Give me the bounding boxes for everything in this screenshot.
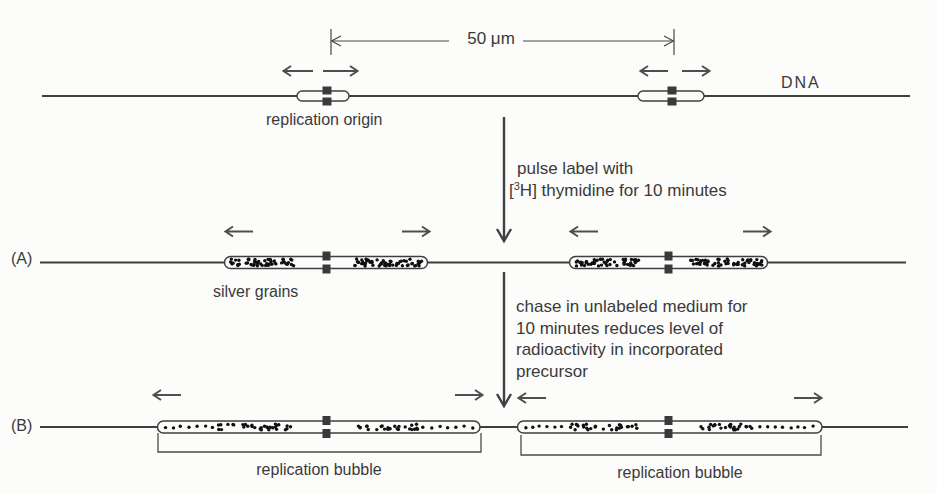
silver-grain-dot bbox=[803, 426, 806, 429]
origin-marker-icon bbox=[668, 87, 677, 95]
silver-grain-dot bbox=[587, 263, 590, 266]
silver-grain-dot bbox=[275, 428, 278, 431]
silver-grain-dot bbox=[811, 424, 814, 427]
silver-grain-dot bbox=[454, 426, 457, 429]
left-arrow-icon bbox=[284, 66, 314, 76]
silver-grain-dot bbox=[417, 260, 420, 263]
silver-grain-dot bbox=[615, 264, 618, 267]
origin-marker-icon bbox=[665, 252, 673, 261]
silver-grain-dot bbox=[724, 426, 727, 429]
silver-grain-dot bbox=[609, 258, 612, 261]
silver-grain-dot bbox=[553, 425, 556, 428]
silver-grain-dot bbox=[231, 261, 234, 264]
silver-grain-dot bbox=[408, 427, 411, 430]
silver-grain-dot bbox=[252, 264, 255, 267]
silver-grain-dot bbox=[367, 259, 370, 262]
silver-grain-dot bbox=[589, 427, 592, 430]
silver-grain-dot bbox=[471, 426, 474, 429]
silver-grain-dot bbox=[608, 424, 611, 427]
silver-grain-dot bbox=[360, 258, 363, 261]
silver-grain-dot bbox=[232, 423, 235, 426]
silver-grain-dot bbox=[634, 423, 637, 426]
silver-grain-dot bbox=[401, 264, 404, 267]
silver-grain-dot bbox=[737, 261, 740, 264]
silver-grain-dot bbox=[623, 262, 626, 265]
silver-grain-dot bbox=[187, 426, 190, 429]
left-arrow-icon bbox=[519, 393, 547, 403]
silver-grain-dot bbox=[537, 424, 540, 427]
silver-grain-dot bbox=[713, 262, 716, 265]
silver-grain-dot bbox=[531, 426, 534, 429]
origin-marker-icon bbox=[323, 252, 331, 261]
silver-grain-dot bbox=[716, 258, 719, 261]
bubble-bracket-left bbox=[158, 433, 481, 452]
silver-grain-dot bbox=[389, 260, 392, 263]
silver-grain-dot bbox=[367, 428, 370, 431]
silver-grain-dot bbox=[626, 263, 629, 266]
silver-grain-dot bbox=[724, 262, 727, 265]
silver-grain-dot bbox=[195, 425, 198, 428]
silver-grain-dot bbox=[462, 424, 465, 427]
silver-grain-dot bbox=[630, 425, 633, 428]
silver-grain-dot bbox=[755, 258, 758, 261]
silver-grain-dot bbox=[282, 258, 285, 261]
silver-grain-dot bbox=[247, 258, 250, 261]
silver-grain-dot bbox=[289, 425, 292, 428]
silver-grain-dot bbox=[600, 263, 603, 266]
silver-grain-dot bbox=[415, 423, 418, 426]
silver-grain-dot bbox=[736, 427, 739, 430]
silver-grain-dot bbox=[357, 260, 360, 263]
silver-grain-dot bbox=[220, 428, 223, 431]
silver-grains-label: silver grains bbox=[213, 283, 298, 301]
silver-grain-dot bbox=[630, 258, 633, 261]
silver-grain-dot bbox=[758, 425, 761, 428]
silver-grain-dot bbox=[632, 264, 635, 267]
silver-grain-dot bbox=[719, 426, 722, 429]
silver-grain-dot bbox=[383, 427, 386, 430]
silver-grain-dot bbox=[766, 425, 769, 428]
left-arrow-icon bbox=[571, 227, 599, 237]
silver-grain-dot bbox=[370, 261, 373, 264]
silver-grain-dot bbox=[268, 262, 271, 265]
silver-grain-dot bbox=[256, 261, 259, 264]
silver-grain-dot bbox=[237, 259, 240, 262]
silver-grain-dot bbox=[179, 425, 182, 428]
silver-grain-dot bbox=[703, 262, 706, 265]
silver-grain-dot bbox=[781, 426, 784, 429]
silver-grain-dot bbox=[545, 425, 548, 428]
silver-grain-dot bbox=[583, 264, 586, 267]
silver-grain-dot bbox=[560, 425, 563, 428]
silver-grain-dot bbox=[592, 262, 595, 265]
silver-grain-dot bbox=[694, 258, 697, 261]
silver-grain-dot bbox=[608, 263, 611, 266]
silver-grain-dot bbox=[603, 261, 606, 264]
silver-grain-dot bbox=[415, 427, 418, 430]
silver-grain-dot bbox=[570, 423, 573, 426]
silver-grain-dot bbox=[594, 425, 597, 428]
silver-grain-dot bbox=[446, 426, 449, 429]
top-fork-arrows bbox=[284, 66, 710, 76]
silver-grain-dot bbox=[575, 264, 578, 267]
pulse-step-line2-rest: H] thymidine for 10 minutes bbox=[520, 181, 727, 200]
silver-grain-dot bbox=[284, 262, 287, 265]
row-b-fork-arrows bbox=[154, 390, 822, 403]
silver-grain-dot bbox=[408, 258, 411, 261]
row-b-label: (B) bbox=[11, 417, 32, 435]
pulse-step-line1: pulse label with bbox=[517, 158, 727, 180]
silver-grain-dot bbox=[280, 261, 283, 264]
silver-grain-dot bbox=[380, 261, 383, 264]
origin-marker-icon bbox=[665, 429, 673, 438]
silver-grain-dot bbox=[691, 259, 694, 262]
silver-grain-dot bbox=[701, 427, 704, 430]
silver-grain-dot bbox=[421, 426, 424, 429]
left-arrow-icon bbox=[641, 66, 669, 76]
silver-grain-dot bbox=[395, 262, 398, 265]
silver-grain-dot bbox=[420, 260, 423, 263]
silver-grain-dot bbox=[635, 427, 638, 430]
silver-grain-dot bbox=[581, 261, 584, 264]
silver-grain-dot bbox=[238, 263, 241, 266]
right-arrow-icon bbox=[682, 66, 710, 76]
origin-marker-icon bbox=[665, 416, 673, 425]
silver-grain-dot bbox=[701, 259, 704, 262]
silver-grain-dot bbox=[400, 259, 403, 262]
